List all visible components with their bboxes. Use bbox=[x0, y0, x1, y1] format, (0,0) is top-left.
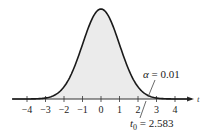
x-tick-label: 4 bbox=[173, 104, 178, 115]
t0-annotation: t0 = 2.583 bbox=[130, 117, 174, 132]
x-tick-label: −1 bbox=[77, 104, 88, 115]
x-tick-label: −3 bbox=[40, 104, 51, 115]
x-tick-label: −4 bbox=[22, 104, 33, 115]
shaded-area bbox=[12, 9, 191, 99]
t0-pointer bbox=[140, 101, 146, 118]
x-tick-label: 1 bbox=[117, 104, 122, 115]
x-axis-label: t bbox=[197, 94, 200, 104]
alpha-pointer bbox=[148, 80, 155, 97]
x-tick-label: 3 bbox=[154, 104, 159, 115]
x-tick-label: −2 bbox=[59, 104, 70, 115]
alpha-annotation: α = 0.01 bbox=[143, 68, 180, 80]
x-tick-label: 2 bbox=[136, 104, 141, 115]
t-distribution-chart: t −4−3−2−101234 α = 0.01 t0 = 2.583 bbox=[0, 0, 206, 136]
x-tick-label: 0 bbox=[99, 104, 104, 115]
